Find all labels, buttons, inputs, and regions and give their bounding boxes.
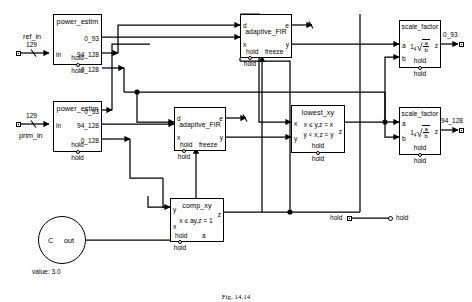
formula-line-2: y < x,z = y xyxy=(300,131,337,138)
input-port-prim-in[interactable] xyxy=(16,122,21,127)
block-power-estim-2[interactable]: power_estim in 0_93 94_128 0_128 hold xyxy=(53,101,102,152)
hold-external-label: hold xyxy=(399,70,441,77)
bus-width-prim-in: 129 xyxy=(26,112,37,119)
fraction-denominator: b xyxy=(423,47,428,53)
hold-external-label: hold xyxy=(238,60,262,67)
radicand: ab xyxy=(422,39,429,53)
output-label-0-93: 0_93 xyxy=(443,31,458,38)
figure-caption: Fig. 14.14 xyxy=(0,293,472,301)
port-hold[interactable]: hold xyxy=(246,48,258,55)
port-z[interactable]: z xyxy=(218,211,221,218)
port-e[interactable]: e xyxy=(285,22,289,29)
port-x[interactable]: x xyxy=(177,134,180,141)
constant-symbol: C xyxy=(48,236,53,245)
port-hold[interactable]: hold xyxy=(54,141,101,148)
port-out-0-93[interactable]: 0_93 xyxy=(84,108,99,115)
hold-external-label: hold xyxy=(291,155,345,162)
legend-hold-source-icon xyxy=(347,216,352,221)
port-d[interactable]: d xyxy=(243,22,247,29)
constant-value-label: value: 3.0 xyxy=(32,268,61,275)
fraction-denominator: b xyxy=(423,133,428,139)
port-y[interactable]: y xyxy=(286,41,289,48)
block-title: comp_xy xyxy=(171,201,223,210)
output-port-94-128[interactable] xyxy=(459,128,464,133)
bus-width-ref-in: 129 xyxy=(26,41,37,48)
port-z[interactable]: z xyxy=(339,128,342,135)
block-title: power_estim xyxy=(54,17,101,26)
block-adaptive-fir-1[interactable]: adaptive_FIR d x e y hold freeze xyxy=(240,14,292,58)
port-hold[interactable]: hold xyxy=(400,57,440,64)
formula-line-1: x ≤ y,z = x xyxy=(300,121,337,128)
legend-right-label: hold xyxy=(396,214,408,221)
block-title: scale_factor xyxy=(400,110,440,117)
port-out-94-128[interactable]: 94_128 xyxy=(77,122,99,129)
port-y[interactable]: y xyxy=(173,206,176,213)
formula-line-1: x ≤ ay,z = 1 xyxy=(175,217,217,224)
hold-external-label: hold xyxy=(399,157,441,164)
port-hold[interactable]: hold xyxy=(175,232,187,239)
port-hold[interactable]: hold xyxy=(400,144,440,151)
port-x[interactable]: x xyxy=(294,120,297,127)
port-in[interactable]: in xyxy=(56,122,61,129)
constant-out-port[interactable]: out xyxy=(64,236,74,245)
port-y[interactable]: y xyxy=(220,134,223,141)
constant-source-block[interactable]: C out xyxy=(38,216,86,264)
port-a[interactable]: a xyxy=(202,232,206,239)
scale-factor-formula: 14√ab xyxy=(400,40,440,54)
port-e[interactable]: e xyxy=(219,115,223,122)
port-d[interactable]: d xyxy=(177,115,181,122)
block-comp-xy[interactable]: comp_xy y x z x ≤ ay,z = 1 hold a xyxy=(170,198,224,242)
block-adaptive-fir-2[interactable]: adaptive_FIR d x e y hold freeze xyxy=(174,107,226,151)
port-hold[interactable]: hold xyxy=(292,142,344,149)
input-port-ref-in[interactable] xyxy=(16,51,21,56)
root-index: 4 xyxy=(414,133,417,138)
block-lowest-xy[interactable]: lowest_xy x y z x ≤ y,z = x y < x,z = y … xyxy=(291,105,345,153)
port-hold[interactable]: hold xyxy=(180,141,192,148)
block-title: scale_factor xyxy=(400,23,440,30)
legend-left-label: hold xyxy=(330,214,342,221)
block-scale-factor-2[interactable]: scale_factor a b z 14√ab hold xyxy=(399,107,441,155)
port-x[interactable]: x xyxy=(243,41,246,48)
port-freeze[interactable]: freeze xyxy=(265,48,283,55)
legend-hold-sink-icon xyxy=(388,216,393,221)
hold-external-label: hold xyxy=(172,153,196,160)
port-y[interactable]: y xyxy=(294,135,297,142)
input-label-ref-in: ref_in xyxy=(23,32,41,41)
block-title: adaptive_FIR xyxy=(241,28,291,35)
block-diagram-canvas: ref_in 129 prim_in 129 power_estim in 0_… xyxy=(0,0,472,302)
port-freeze[interactable]: freeze xyxy=(199,141,217,148)
root-index: 4 xyxy=(414,47,417,52)
output-port-0-93[interactable] xyxy=(459,42,464,47)
port-hold[interactable]: hold xyxy=(54,54,101,61)
hold-external-label: hold xyxy=(53,154,102,161)
fraction-numerator: a xyxy=(423,126,428,133)
hold-external-label: hold xyxy=(168,244,192,251)
port-out-0-93[interactable]: 0_93 xyxy=(84,35,99,42)
radicand: ab xyxy=(422,125,429,139)
port-x[interactable]: x xyxy=(173,223,176,230)
block-scale-factor-1[interactable]: scale_factor a b z 14√ab hold xyxy=(399,20,441,68)
output-label-94-128: 94_128 xyxy=(441,117,463,124)
block-title: adaptive_FIR xyxy=(175,121,225,128)
block-power-estim-1[interactable]: power_estim in 0_93 94_128 0_128 hold xyxy=(53,14,102,65)
fraction-numerator: a xyxy=(423,40,428,47)
scale-factor-formula: 14√ab xyxy=(400,126,440,140)
input-label-prim-in: prim_in xyxy=(19,131,43,140)
hold-external-label: hold xyxy=(53,67,102,74)
block-title: lowest_xy xyxy=(292,108,344,117)
